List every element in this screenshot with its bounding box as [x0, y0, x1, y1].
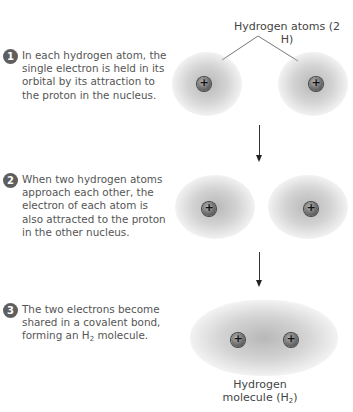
step-3-badge: 3 [3, 303, 18, 318]
proton-icon [304, 202, 318, 216]
step-2-badge: 2 [3, 173, 18, 188]
step-1-badge: 1 [3, 49, 18, 64]
proton-icon [309, 77, 323, 91]
shared-electron-cloud [190, 300, 338, 376]
step-2-text: When two hydrogen atoms approach each ot… [22, 173, 172, 239]
proton-icon [231, 333, 245, 347]
step-2: 2 When two hydrogen atoms approach each … [22, 173, 172, 239]
step-1: 1 In each hydrogen atom, the single elec… [22, 49, 172, 102]
step-1-text: In each hydrogen atom, the single electr… [22, 49, 172, 102]
hydrogen-molecule-label: Hydrogen molecule (H2) [220, 378, 300, 408]
step-3-text: The two electrons become shared in a cov… [22, 303, 172, 347]
proton-icon [197, 77, 211, 91]
proton-icon [284, 333, 298, 347]
arrow-down-icon [259, 252, 260, 282]
proton-icon [202, 202, 216, 216]
arrow-down-icon [259, 125, 260, 157]
step-3: 3 The two electrons become shared in a c… [22, 303, 172, 347]
